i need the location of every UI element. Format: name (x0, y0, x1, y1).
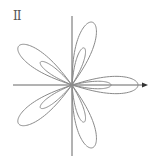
x-axis-arrow-icon (142, 83, 148, 88)
polar-rose-diagram (0, 0, 159, 163)
